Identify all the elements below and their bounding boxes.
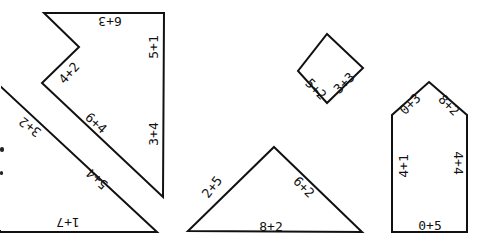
label-house-3: 4+4 xyxy=(452,151,465,174)
label-long-triangle-2: 1+7 xyxy=(56,216,79,229)
diamond-shape xyxy=(298,34,363,103)
label-wide-triangle-2: 8+2 xyxy=(259,220,282,233)
label-zigzag-4: 3+4 xyxy=(147,122,160,145)
label-zigzag-1: 5+1 xyxy=(147,35,160,58)
long-triangle-shape xyxy=(0,86,157,232)
shapes-canvas xyxy=(0,0,493,245)
label-zigzag-0: 6+3 xyxy=(98,15,121,28)
label-house-2: 4+1 xyxy=(397,154,410,177)
edge-mark xyxy=(0,147,4,152)
label-house-4: 0+5 xyxy=(418,219,441,232)
edge-mark xyxy=(0,171,3,175)
left-edge-mask xyxy=(0,80,1,230)
